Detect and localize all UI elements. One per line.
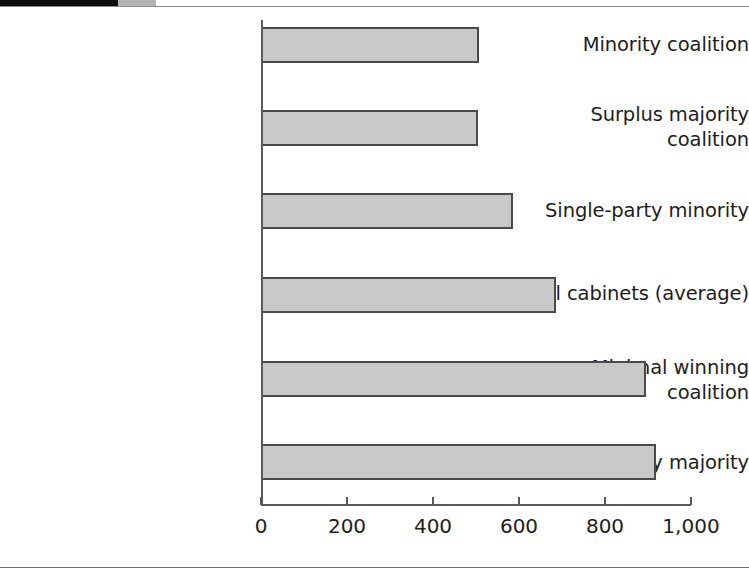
bar-single-party-minority: [261, 193, 513, 229]
page-top-rule: [0, 6, 749, 7]
x-axis-tick-label-1000: 1,000: [662, 514, 719, 538]
x-axis-tick-label-800: 800: [586, 514, 624, 538]
x-axis-tick-label-0: 0: [255, 514, 268, 538]
page-bottom-rule: [0, 567, 749, 568]
x-axis-tick-label-200: 200: [328, 514, 366, 538]
category-label-minority-coalition: Minority coalition: [517, 32, 749, 57]
bar-surplus-majority-coalition: [261, 110, 478, 146]
x-axis-tick-label-400: 400: [414, 514, 452, 538]
bar-minimal-winning-coalition: [261, 361, 646, 397]
x-axis-tick-0: [260, 497, 262, 505]
bar-minority-coalition: [261, 27, 479, 63]
x-axis-tick-1000: [690, 497, 692, 505]
bar-single-party-majority: [261, 444, 656, 480]
category-label-surplus-majority-coalition: Surplus majority coalition: [517, 102, 749, 152]
y-axis-line: [261, 20, 263, 506]
bar-chart: Minority coalition Surplus majority coal…: [0, 0, 749, 584]
x-axis-tick-label-600: 600: [500, 514, 538, 538]
x-axis-tick-600: [518, 497, 520, 505]
x-axis-tick-400: [432, 497, 434, 505]
x-axis-tick-200: [346, 497, 348, 505]
x-axis-line: [261, 504, 691, 506]
x-axis-tick-800: [604, 497, 606, 505]
category-label-single-party-minority: Single-party minority: [517, 198, 749, 223]
bar-all-cabinets-average: [261, 277, 556, 313]
